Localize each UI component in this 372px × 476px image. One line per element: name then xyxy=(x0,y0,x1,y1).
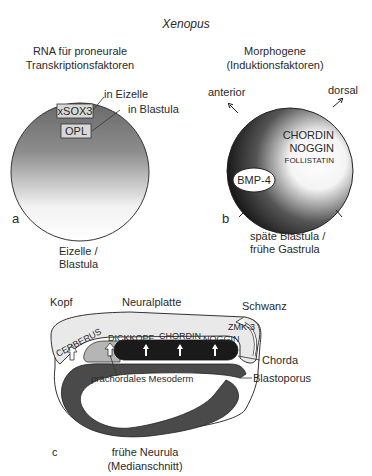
label-chordin-c: CHORDIN xyxy=(159,331,201,341)
panel-c-caption-1: frühe Neurula xyxy=(112,446,180,458)
arrow-dorsal-icon xyxy=(333,100,341,107)
panel-b-caption-2: frühe Gastrula xyxy=(250,243,321,255)
panel-letter-c: c xyxy=(52,446,58,458)
panel-c: Kopf Neuralplatte Schwanz ZMK-3 CERBERUS… xyxy=(50,296,312,472)
label-noggin-b: NOGGIN xyxy=(289,142,334,154)
label-dorsal: dorsal xyxy=(328,84,358,96)
label-follistatin-b: FOLLISTATIN xyxy=(285,156,335,165)
panel-a-heading-1: RNA für proneurale xyxy=(33,45,127,57)
panel-a-caption-1: Eizelle / xyxy=(59,245,98,257)
label-kopf: Kopf xyxy=(50,296,74,308)
xenopus-diagram: Xenopus RNA für proneurale Transkription… xyxy=(0,0,372,476)
label-noggin-c: NOGGIN xyxy=(203,334,240,344)
panel-b: Morphogene (Induktionsfaktoren) anterior… xyxy=(208,45,358,255)
panel-a-caption-2: Blastula xyxy=(59,258,99,270)
label-zmk3: ZMK-3 xyxy=(228,322,255,332)
label-dickkopf: DICKKOPF xyxy=(108,333,155,343)
label-bmp4: BMP-4 xyxy=(237,174,271,186)
panel-letter-b: b xyxy=(222,211,229,226)
panel-a-heading-2: Transkriptionsfaktoren xyxy=(26,59,134,71)
arrow-anterior-icon xyxy=(230,105,238,113)
label-chorda: Chorda xyxy=(262,354,299,366)
panel-b-heading-1: Morphogene xyxy=(244,45,306,57)
diagram-title: Xenopus xyxy=(161,17,209,31)
panel-b-heading-2: (Induktionsfaktoren) xyxy=(226,59,323,71)
label-anterior: anterior xyxy=(208,86,246,98)
label-xsox3: xSOX3 xyxy=(58,105,93,117)
label-in-blastula: in Blastula xyxy=(128,103,180,115)
label-neuralplatte: Neuralplatte xyxy=(122,296,181,308)
label-opl: OPL xyxy=(65,125,87,137)
panel-c-caption-2: (Medianschnitt) xyxy=(107,460,182,472)
label-schwanz: Schwanz xyxy=(242,300,287,312)
panel-a: RNA für proneurale Transkriptionsfaktore… xyxy=(11,45,180,270)
panel-letter-a: a xyxy=(12,211,20,226)
label-in-eizelle: in Eizelle xyxy=(104,88,148,100)
panel-b-caption-1: späte Blastula / xyxy=(250,230,326,242)
label-blastoporus: Blastoporus xyxy=(253,372,312,384)
label-chordin-b: CHORDIN xyxy=(283,129,334,141)
label-prechordal-mesoderm: prächordales Mesoderm xyxy=(91,373,194,384)
